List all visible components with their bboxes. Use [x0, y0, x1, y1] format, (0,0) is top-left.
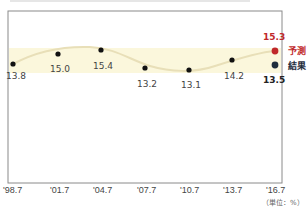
x-tick-label: '13.7	[223, 185, 242, 195]
unit-label: （単位：%）	[262, 198, 304, 207]
data-label: 15.0	[50, 64, 70, 74]
line-chart: 13.8 15.0 15.4 13.2 13.1 14.2 15.3 13.5 …	[0, 0, 307, 209]
legend-forecast: 予測	[288, 45, 306, 56]
chart-frame	[8, 11, 282, 183]
data-point	[142, 65, 147, 70]
x-tick-label: '01.7	[50, 185, 69, 195]
data-label: 14.2	[224, 71, 244, 81]
result-value-label: 13.5	[263, 75, 285, 85]
clipped-title-strip	[10, 0, 250, 2]
x-tick-label: '10.7	[180, 185, 199, 195]
data-point	[10, 61, 15, 66]
legend-result: 結果	[288, 60, 307, 71]
x-tick-label: '04.7	[93, 185, 112, 195]
x-tick-label: '07.7	[137, 185, 156, 195]
forecast-point	[272, 48, 279, 55]
data-label: 13.1	[181, 80, 201, 90]
forecast-value-label: 15.3	[263, 32, 285, 42]
data-point	[229, 57, 234, 62]
x-tick-label: '98.7	[3, 185, 22, 195]
data-label: 15.4	[93, 61, 113, 71]
data-label: 13.8	[6, 71, 26, 81]
data-point	[55, 51, 60, 56]
data-point	[186, 67, 191, 72]
data-point	[98, 47, 103, 52]
x-tick-label: '16.7	[266, 185, 285, 195]
data-label: 13.2	[137, 79, 157, 89]
result-point	[272, 62, 279, 69]
